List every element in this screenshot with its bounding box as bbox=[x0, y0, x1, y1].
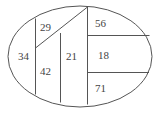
region-label-29: 29 bbox=[40, 22, 51, 33]
region-label-21: 21 bbox=[66, 51, 77, 62]
region-label-56: 56 bbox=[95, 18, 106, 29]
region-label-42: 42 bbox=[40, 66, 51, 77]
region-label-34: 34 bbox=[18, 51, 29, 62]
diagram-canvas: 34 29 42 21 56 18 71 bbox=[0, 0, 161, 114]
region-label-18: 18 bbox=[98, 50, 109, 61]
region-label-71: 71 bbox=[95, 83, 106, 94]
ellipse-outline bbox=[8, 6, 152, 107]
